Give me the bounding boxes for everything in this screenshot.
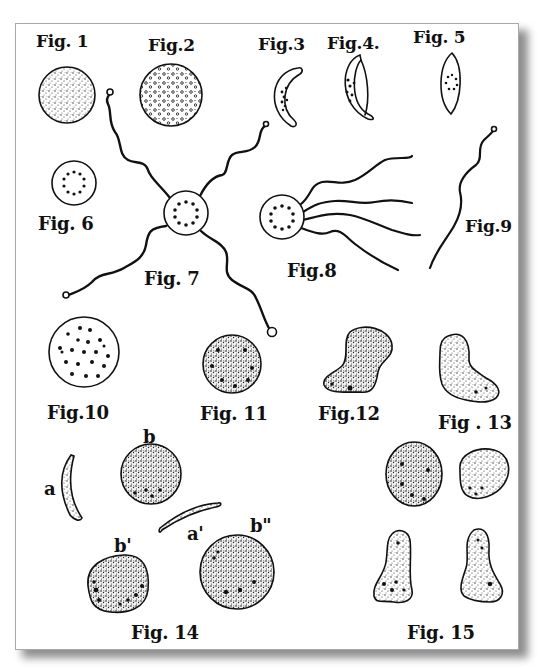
fig12-amoeboid — [324, 327, 392, 392]
fig8-flagellated-cell — [260, 156, 420, 270]
plate-illustration — [0, 0, 544, 672]
label-fig12: Fig.12 — [318, 405, 380, 423]
label-fig9: Fig.9 — [465, 218, 512, 235]
fig15-group — [374, 442, 509, 603]
fig13-amoeboid — [440, 334, 499, 402]
label-fig2: Fig.2 — [148, 37, 195, 54]
label-fig7: Fig. 7 — [144, 270, 199, 288]
label-fig10: Fig.10 — [47, 404, 109, 422]
label-fig14-b-double-prime: b" — [250, 517, 271, 535]
label-fig4: Fig.4. — [327, 35, 379, 52]
label-fig5: Fig. 5 — [413, 29, 465, 46]
label-fig8: Fig.8 — [287, 262, 337, 280]
label-fig13: Fig . 13 — [438, 414, 512, 432]
label-fig6: Fig. 6 — [38, 215, 93, 233]
fig9-flagellum — [430, 127, 497, 269]
fig2-sphere — [140, 64, 202, 126]
label-fig14-a: a — [44, 480, 55, 498]
label-fig14-a-prime: a' — [187, 525, 204, 543]
label-fig3: Fig.3 — [258, 36, 305, 53]
fig3-crescent — [274, 68, 302, 127]
fig11-sphere — [203, 335, 261, 393]
label-fig15: Fig. 15 — [407, 624, 475, 642]
fig10-sphere — [49, 317, 119, 387]
fig4-crescent — [345, 55, 373, 120]
label-fig14-b: b — [143, 428, 155, 446]
fig5-spindle — [441, 53, 460, 114]
label-fig1: Fig. 1 — [36, 33, 88, 50]
fig6-sphere — [52, 161, 96, 205]
label-fig14-b-prime: b' — [114, 537, 132, 555]
label-fig11: Fig. 11 — [200, 405, 268, 423]
label-fig14: Fig. 14 — [131, 624, 199, 642]
fig14-group — [62, 444, 274, 612]
fig1-sphere — [39, 67, 95, 123]
